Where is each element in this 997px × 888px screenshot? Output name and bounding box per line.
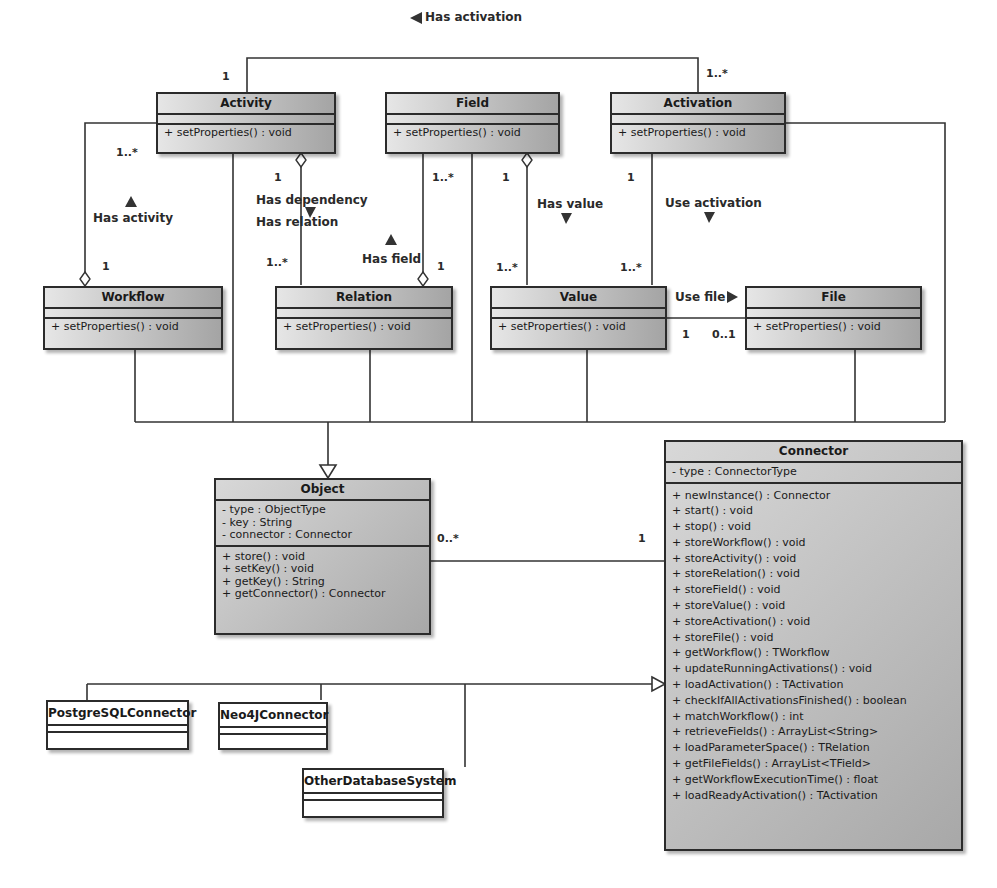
- class-operation: + storeRelation() : void: [672, 566, 955, 582]
- class-name: Activity: [158, 94, 334, 115]
- class-object[interactable]: Object - type : ObjectType - key : Strin…: [214, 478, 431, 635]
- label-use-file: Use file: [675, 290, 725, 304]
- gen-activation: [778, 123, 945, 422]
- class-relation[interactable]: Relation + setProperties() : void: [275, 286, 453, 350]
- mult-relation-activity: 1..*: [266, 256, 288, 269]
- class-attribute: - type : ConnectorType: [672, 466, 955, 479]
- aggregation-diamond-icon: [80, 272, 90, 286]
- mult-activity-activation: 1: [222, 70, 230, 83]
- aggregation-diamond-icon: [522, 153, 532, 167]
- class-operation: + getFileFields() : ArrayList<TField>: [672, 756, 955, 772]
- class-operation: + setKey() : void: [222, 563, 423, 576]
- class-field[interactable]: Field + setProperties() : void: [385, 92, 560, 154]
- label-has-activity: Has activity: [93, 211, 173, 225]
- class-operation: + storeValue() : void: [672, 598, 955, 614]
- class-attributes: [277, 309, 451, 319]
- class-operation: + start() : void: [672, 503, 955, 519]
- mult-activity-workflow: 1..*: [116, 146, 138, 159]
- mult-value-file: 1: [682, 328, 690, 341]
- mult-file-value: 0..1: [712, 328, 736, 341]
- mult-object-connector: 0..*: [437, 532, 459, 545]
- class-operation: + getWorkflowExecutionTime() : float: [672, 772, 955, 788]
- class-value[interactable]: Value + setProperties() : void: [490, 286, 667, 350]
- mult-activity-relation: 1: [274, 171, 282, 184]
- class-attributes: [612, 115, 784, 125]
- class-attributes: - type : ObjectType - key : String - con…: [216, 501, 429, 547]
- class-operation: + setProperties() : void: [164, 127, 328, 140]
- label-has-value: Has value: [537, 197, 603, 211]
- class-name: OtherDatabaseSystem: [304, 770, 442, 794]
- class-operation: + retrieveFields() : ArrayList<String>: [672, 724, 955, 740]
- class-operation: + getConnector() : Connector: [222, 588, 423, 601]
- mult-activation-activity: 1..*: [706, 67, 728, 80]
- class-attributes: [158, 115, 334, 125]
- aggregation-diamond-icon: [418, 272, 428, 286]
- class-operation: + setProperties() : void: [498, 321, 659, 334]
- class-operation: + loadActivation() : TActivation: [672, 677, 955, 693]
- class-operation: + loadReadyActivation() : TActivation: [672, 788, 955, 804]
- class-name: Object: [216, 480, 429, 501]
- class-attributes: [492, 309, 665, 319]
- generalization-arrow-icon: [320, 465, 336, 478]
- aggregation-diamond-icon: [296, 153, 306, 167]
- class-operation: + setProperties() : void: [51, 321, 215, 334]
- class-name: Workflow: [45, 288, 221, 309]
- mult-relation-field: 1: [437, 260, 445, 273]
- arrow-right-icon: [727, 291, 738, 303]
- class-operation: + storeActivation() : void: [672, 614, 955, 630]
- class-workflow[interactable]: Workflow + setProperties() : void: [43, 286, 223, 350]
- class-operation: + newInstance() : Connector: [672, 488, 955, 504]
- class-file[interactable]: File + setProperties() : void: [745, 286, 922, 350]
- assoc-has-activation: [247, 58, 698, 92]
- class-other-database-system[interactable]: OtherDatabaseSystem: [302, 768, 444, 818]
- class-operation: + storeFile() : void: [672, 630, 955, 646]
- class-operation: + stop() : void: [672, 519, 955, 535]
- class-neo4j-connector[interactable]: Neo4JConnector: [218, 702, 328, 750]
- class-operations: + newInstance() : Connector+ start() : v…: [666, 484, 961, 808]
- class-operation: + matchWorkflow() : int: [672, 709, 955, 725]
- mult-field-relation: 1..*: [432, 171, 454, 184]
- label-use-activation: Use activation: [665, 196, 762, 210]
- class-name: Neo4JConnector: [220, 704, 326, 728]
- mult-field-value: 1: [502, 171, 510, 184]
- mult-value-activation: 1..*: [620, 261, 642, 274]
- mult-activation-value: 1: [627, 171, 635, 184]
- mult-workflow-activity: 1: [102, 260, 110, 273]
- class-activation[interactable]: Activation + setProperties() : void: [610, 92, 786, 154]
- arrow-left-icon: [410, 12, 422, 24]
- class-operation: + updateRunningActivations() : void: [672, 661, 955, 677]
- label-has-relation: Has relation: [256, 215, 338, 229]
- class-operation: + setProperties() : void: [618, 127, 778, 140]
- class-attributes: [45, 309, 221, 319]
- class-name: Activation: [612, 94, 784, 115]
- class-attribute: - connector : Connector: [222, 529, 423, 542]
- class-operation: + setProperties() : void: [393, 127, 552, 140]
- class-attributes: [387, 115, 558, 125]
- class-operation: + storeWorkflow() : void: [672, 535, 955, 551]
- arrow-down-icon: [704, 212, 715, 223]
- arrow-down-icon: [561, 213, 572, 224]
- class-attributes: [747, 309, 920, 319]
- mult-value-field: 1..*: [496, 261, 518, 274]
- class-connector[interactable]: Connector - type : ConnectorType + newIn…: [664, 440, 963, 851]
- class-name: Value: [492, 288, 665, 309]
- label-has-field: Has field: [362, 252, 421, 266]
- class-activity[interactable]: Activity + setProperties() : void: [156, 92, 336, 154]
- class-operation: + setProperties() : void: [283, 321, 445, 334]
- arrow-up-icon: [385, 234, 397, 245]
- class-attribute: - type : ObjectType: [222, 504, 423, 517]
- class-attributes: - type : ConnectorType: [666, 463, 961, 484]
- class-name: Connector: [666, 442, 961, 463]
- class-operations: + store() : void + setKey() : void + get…: [216, 547, 429, 605]
- class-name: PostgreSQLConnector: [48, 702, 187, 726]
- label-has-activation: Has activation: [425, 10, 522, 24]
- class-postgresql-connector[interactable]: PostgreSQLConnector: [46, 700, 189, 750]
- class-name: File: [747, 288, 920, 309]
- class-name: Relation: [277, 288, 451, 309]
- label-has-dependency: Has dependency: [256, 193, 368, 207]
- class-attributes: [304, 794, 442, 801]
- class-operations: [220, 735, 326, 742]
- class-operation: + storeField() : void: [672, 582, 955, 598]
- class-operation: + checkIfAllActivationsFinished() : bool…: [672, 693, 955, 709]
- class-operation: + storeActivity() : void: [672, 551, 955, 567]
